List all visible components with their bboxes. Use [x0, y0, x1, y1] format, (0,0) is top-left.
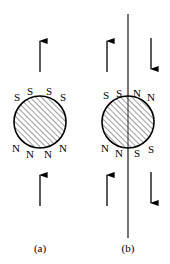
pole-label-s: S [148, 143, 154, 155]
panel-b: S S N N N N S S (b) [101, 14, 155, 255]
panel-caption-a: (a) [34, 242, 47, 255]
pole-label-n: N [133, 87, 141, 99]
pole-label-s: S [60, 91, 66, 103]
pole-label-s: S [103, 89, 109, 101]
pole-label-n: N [115, 147, 123, 159]
pole-label-s: S [27, 85, 33, 97]
pole-label-n: N [26, 148, 34, 160]
pole-label-s: S [14, 91, 20, 103]
magnetised-sphere-a [14, 96, 66, 148]
panel-caption-b: (b) [122, 242, 135, 255]
magnetised-sphere-figure: S S S S N N N N (a) [0, 0, 170, 264]
pole-label-s: S [46, 85, 52, 97]
pole-label-n: N [12, 142, 20, 154]
pole-label-s: S [116, 87, 122, 99]
figure-canvas: S S S S N N N N (a) [0, 0, 170, 264]
pole-label-s: S [134, 147, 140, 159]
pole-label-n: N [59, 142, 67, 154]
pole-label-n: N [44, 148, 52, 160]
pole-label-n: N [101, 142, 109, 154]
panel-a: S S S S N N N N (a) [12, 41, 67, 255]
pole-label-n: N [147, 91, 155, 103]
